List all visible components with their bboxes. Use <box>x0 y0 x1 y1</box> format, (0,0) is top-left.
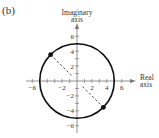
panel-label: (b) <box>2 4 15 17</box>
y-tick-label: 2 <box>71 63 75 71</box>
x-tick-label: 6 <box>120 84 124 92</box>
x-tick-label: −2 <box>58 84 66 92</box>
complex-plane-diagram: (b) Imaginary axis Real axis −6−2246 642… <box>0 0 159 138</box>
y-tick-labels: 642−2−4−6 <box>67 33 75 130</box>
dashed-segment <box>51 55 72 76</box>
x-tick-labels: −6−2246 <box>29 84 124 92</box>
real-axis-arrow-icon <box>130 79 136 83</box>
point-marker <box>48 52 53 57</box>
y-tick-label: −4 <box>67 107 75 115</box>
x-tick-label: 4 <box>105 84 109 92</box>
axes <box>26 23 136 133</box>
y-tick-label: −2 <box>67 92 75 100</box>
real-axis-subtitle: axis <box>140 80 152 89</box>
y-tick-label: −6 <box>67 122 75 130</box>
y-tick-label: 6 <box>71 33 75 41</box>
y-tick-label: 4 <box>71 48 75 56</box>
x-tick-label: 2 <box>90 84 94 92</box>
point-marker <box>101 105 106 110</box>
x-tick-label: −6 <box>29 84 37 92</box>
imaginary-axis-subtitle: axis <box>71 15 83 24</box>
